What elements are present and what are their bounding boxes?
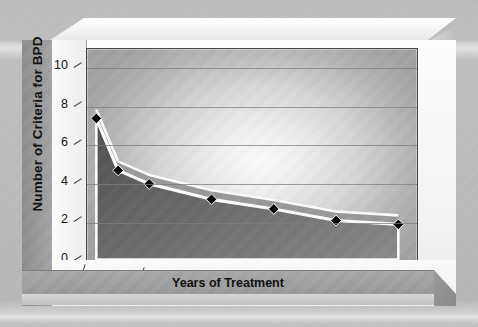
- gridline: [87, 107, 417, 108]
- y-axis-tick-label: 6: [46, 135, 68, 149]
- y-axis-tick-label: 8: [46, 97, 68, 111]
- x-axis-title: Years of Treatment: [172, 276, 284, 290]
- gridline: [87, 68, 417, 69]
- chart-3d-frame: Number of Criteria for BPD 0246810 02468…: [22, 18, 456, 306]
- plot-area-wrapper: [86, 48, 416, 260]
- gridline: [87, 184, 417, 185]
- gridlines: [87, 49, 417, 261]
- y-axis-title: Number of Criteria for BPD: [22, 0, 52, 248]
- y-axis-tick-label: 2: [46, 212, 68, 226]
- y-axis-tick-label: 4: [46, 174, 68, 188]
- x-axis-title-band: Years of Treatment: [22, 270, 434, 295]
- y-axis-tick-label: 10: [46, 58, 68, 72]
- gridline: [87, 223, 417, 224]
- y-axis-title-panel: Number of Criteria for BPD: [22, 40, 52, 287]
- gridline: [87, 145, 417, 146]
- chart-screenshot: Number of Criteria for BPD 0246810 02468…: [0, 0, 478, 327]
- frame-bottom-bevel: [22, 294, 434, 305]
- plot-area: [86, 48, 418, 262]
